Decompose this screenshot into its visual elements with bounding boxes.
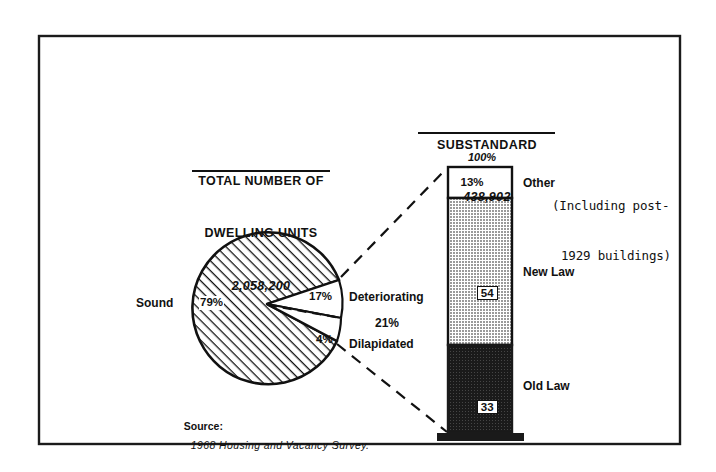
pie-value-sound: 79% xyxy=(199,296,224,310)
bar-note-line1: (Including post- xyxy=(552,198,671,215)
pie-value-combined-substandard: 21% xyxy=(375,316,399,330)
bar-value-other: 13% xyxy=(460,176,483,190)
figure-root: TOTAL NUMBER OF DWELLING UNITS 2,058,200… xyxy=(0,0,716,472)
bar-heading-value: 438,902 xyxy=(437,190,537,205)
pie-label-sound: Sound xyxy=(136,296,173,310)
bar-value-old-law-wrap: 33 xyxy=(459,378,498,435)
bar-heading: SUBSTANDARD 438,902 xyxy=(437,100,537,243)
bar-label-old-law: Old Law xyxy=(523,379,570,393)
pie-heading-line2: DWELLING UNITS xyxy=(198,226,323,241)
bar-value-old-law: 33 xyxy=(477,400,498,414)
pie-value-dilapidated: 4% xyxy=(316,333,333,347)
source-text: 1968 Housing and Vacancy Survey. xyxy=(191,439,370,451)
bar-top-axis-label: 100% xyxy=(468,151,496,164)
source-note: Source: 1968 Housing and Vacancy Survey. xyxy=(166,397,369,472)
bar-note-line2: 1929 buildings) xyxy=(561,248,671,265)
pie-label-dilapidated: Dilapidated xyxy=(349,337,414,351)
pie-value-deteriorating: 17% xyxy=(309,290,332,304)
bar-note: (Including post- 1929 buildings) xyxy=(552,164,671,299)
bar-value-new-law: 54 xyxy=(477,286,498,300)
bar-value-new-law-wrap: 54 xyxy=(459,264,498,321)
source-label: Source: xyxy=(184,420,223,432)
leader-line-upper xyxy=(341,168,447,277)
bar-label-other: Other xyxy=(523,176,555,190)
pie-heading-line1: TOTAL NUMBER OF xyxy=(198,174,323,189)
pie-heading-value: 2,058,200 xyxy=(198,279,323,294)
pie-label-deteriorating: Deteriorating xyxy=(349,290,424,304)
